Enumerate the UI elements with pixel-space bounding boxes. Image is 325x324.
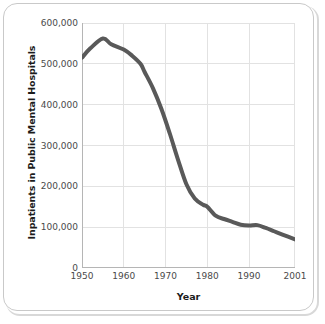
line-chart: 0100,000200,000300,000400,000500,000600,… [0,0,325,324]
x-tick-label: 1960 [112,271,135,281]
x-tick-label: 2001 [284,271,307,281]
x-axis-title: Year [82,291,295,302]
x-tick-label: 1980 [196,271,219,281]
x-tick-label: 1970 [154,271,177,281]
x-tick-label: 1950 [71,271,94,281]
x-tick-label: 1990 [238,271,261,281]
y-axis-title: Inpatients in Public Mental Hospitals [26,28,37,258]
x-axis-tick-labels: 195019601970198019902001 [0,0,325,324]
